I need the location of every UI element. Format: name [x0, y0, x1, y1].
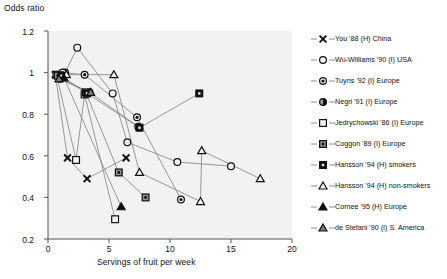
legend-item-8[interactable]: Cornee '95 (H) Europe — [311, 196, 447, 217]
legend-label: de Stefani '90 (I) S. America — [335, 223, 424, 232]
legend-item-5[interactable]: Coggon '89 (I) Europe — [311, 133, 447, 154]
marker-filled-square-icon — [311, 158, 335, 172]
legend: You '88 (H) China Wu-Williams '90 (I) US… — [311, 28, 447, 238]
marker-shaded-triangle-icon — [311, 221, 335, 235]
marker-cross-icon — [311, 32, 335, 46]
legend-label: Jedrychowski '86 (I) Europe — [335, 118, 423, 127]
marker-dotted-square-icon — [311, 137, 335, 151]
legend-item-7[interactable]: Hansson '94 (H) non-smokers — [311, 175, 447, 196]
legend-item-9[interactable]: de Stefani '90 (I) S. America — [311, 217, 447, 238]
legend-label: Wu-Williams '90 (I) USA — [335, 55, 412, 64]
marker-bullseye-circle-icon — [311, 74, 335, 88]
legend-item-3[interactable]: Negri '91 (I) Europe — [311, 91, 447, 112]
marker-open-circle-icon — [311, 53, 335, 67]
legend-label: Tuyns '92 (I) Europe — [335, 76, 400, 85]
marker-half-circle-icon — [311, 95, 335, 109]
legend-label: Negri '91 (I) Europe — [335, 97, 398, 106]
legend-item-4[interactable]: Jedrychowski '86 (I) Europe — [311, 112, 447, 133]
legend-label: Hansson '94 (H) non-smokers — [335, 181, 430, 190]
legend-label: Coggon '89 (I) Europe — [335, 139, 406, 148]
chart-figure: Odds ratio Servings of fruit per week 1.… — [0, 0, 447, 279]
legend-label: Cornee '95 (H) Europe — [335, 202, 407, 211]
legend-label: You '88 (H) China — [335, 34, 391, 43]
legend-label: Hansson '94 (H) smokers — [335, 160, 416, 169]
marker-open-square-icon — [311, 116, 335, 130]
legend-item-6[interactable]: Hansson '94 (H) smokers — [311, 154, 447, 175]
legend-item-2[interactable]: Tuyns '92 (I) Europe — [311, 70, 447, 91]
marker-filled-triangle-icon — [311, 200, 335, 214]
legend-item-0[interactable]: You '88 (H) China — [311, 28, 447, 49]
legend-item-1[interactable]: Wu-Williams '90 (I) USA — [311, 49, 447, 70]
plot-background — [48, 31, 292, 239]
marker-open-triangle-icon — [311, 179, 335, 193]
